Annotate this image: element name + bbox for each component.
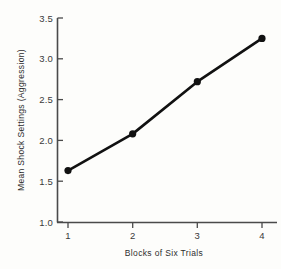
- y-tick-label-3.0: 3.0: [39, 53, 53, 64]
- data-point: [129, 130, 136, 137]
- y-tick-label-3.5: 3.5: [39, 13, 53, 24]
- chart-figure: 1.0 1.5 2.0 2.5 3.0 3.5 1 2 3 4 Blocks o…: [0, 0, 281, 269]
- y-axis-title: Mean Shock Settings (Aggression): [16, 49, 26, 191]
- x-tick-label-3: 3: [195, 230, 200, 241]
- y-tick-label-1.5: 1.5: [39, 176, 53, 187]
- data-point: [258, 35, 265, 42]
- x-tick-label-2: 2: [130, 230, 135, 241]
- y-tick-label-1.0: 1.0: [39, 217, 53, 228]
- data-point: [194, 78, 201, 85]
- data-point: [64, 167, 71, 174]
- x-tick-label-1: 1: [65, 230, 70, 241]
- line-chart: 1.0 1.5 2.0 2.5 3.0 3.5 1 2 3 4 Blocks o…: [0, 0, 281, 269]
- y-tick-label-2.5: 2.5: [39, 94, 53, 105]
- x-axis-title: Blocks of Six Trials: [125, 248, 203, 258]
- y-tick-label-2.0: 2.0: [39, 135, 53, 146]
- x-tick-label-4: 4: [259, 230, 264, 241]
- data-series-line: [68, 38, 262, 170]
